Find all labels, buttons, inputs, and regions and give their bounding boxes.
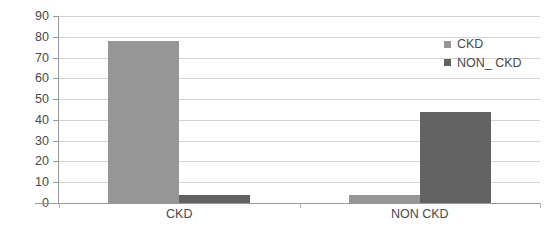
- y-axis-tick-label: 50: [5, 93, 49, 106]
- y-axis-tick: [53, 78, 59, 79]
- y-axis-tick: [53, 120, 59, 121]
- legend-label: CKD: [457, 38, 483, 51]
- x-axis-category-label: NON CKD: [391, 208, 449, 222]
- legend-item-ckd: CKD: [444, 38, 522, 51]
- bar: [420, 112, 491, 203]
- chart-legend: CKD NON_ CKD: [444, 38, 522, 69]
- x-axis-line: [35, 203, 540, 204]
- y-axis-tick-label: 40: [5, 114, 49, 127]
- x-axis-category-label: CKD: [166, 208, 192, 222]
- y-axis-tick-label: 60: [5, 72, 49, 85]
- y-axis-labels: 0102030405060708090: [0, 0, 49, 236]
- x-axis-tick: [540, 203, 541, 208]
- y-axis-tick-label: 20: [5, 155, 49, 168]
- legend-item-non-ckd: NON_ CKD: [444, 57, 522, 70]
- bar: [108, 41, 179, 203]
- legend-swatch-icon: [444, 41, 451, 48]
- y-axis-tick-label: 80: [5, 31, 49, 44]
- y-axis-tick-label: 10: [5, 176, 49, 189]
- y-axis-tick: [53, 16, 59, 17]
- bar-chart: 0102030405060708090 CKDNON CKD CKD NON_ …: [0, 0, 547, 236]
- y-axis-tick: [53, 99, 59, 100]
- y-axis-tick-label: 70: [5, 51, 49, 64]
- legend-swatch-icon: [444, 59, 451, 66]
- y-axis-tick-label: 90: [5, 10, 49, 23]
- gridline: [59, 16, 540, 17]
- y-axis-tick: [53, 141, 59, 142]
- y-axis-tick: [53, 182, 59, 183]
- bar: [179, 195, 250, 203]
- x-axis-tick: [59, 203, 60, 208]
- y-axis-line: [58, 16, 59, 204]
- y-axis-tick: [53, 58, 59, 59]
- legend-label: NON_ CKD: [457, 57, 522, 70]
- y-axis-tick: [53, 37, 59, 38]
- y-axis-tick: [53, 161, 59, 162]
- x-axis-tick: [300, 203, 301, 208]
- bar: [349, 195, 420, 203]
- y-axis-tick-label: 30: [5, 134, 49, 147]
